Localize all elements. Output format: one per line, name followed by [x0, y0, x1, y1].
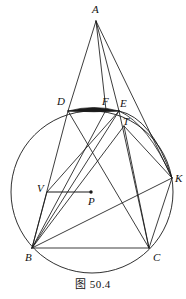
- figure-caption: 图 50.4: [0, 278, 186, 291]
- segment-EB: [32, 111, 119, 248]
- segment-DC: [68, 111, 149, 248]
- segment-TC: [124, 126, 149, 248]
- point-label-P: P: [88, 196, 95, 207]
- point-label-E: E: [120, 98, 127, 109]
- point-label-D: D: [57, 96, 65, 107]
- point-label-T: T: [123, 116, 129, 127]
- point-label-A: A: [92, 4, 99, 15]
- center-point-marker: [89, 190, 92, 193]
- geometry-figure: A D F E T K V P B C 图 50.4: [0, 0, 186, 299]
- segment-FB: [32, 110, 106, 248]
- point-label-V: V: [37, 183, 44, 194]
- segment-TB: [32, 126, 124, 248]
- segment-CK: [149, 178, 172, 248]
- point-label-K: K: [175, 173, 182, 184]
- segment-BK: [32, 178, 172, 248]
- point-label-B: B: [25, 252, 32, 263]
- point-label-F: F: [102, 96, 109, 107]
- segment-VB: [32, 192, 47, 248]
- segment-AD: [68, 21, 96, 111]
- point-label-C: C: [153, 252, 160, 263]
